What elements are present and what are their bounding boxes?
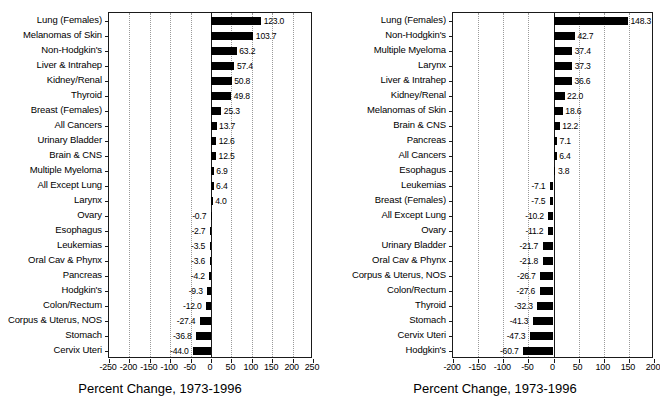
bar-value-label: -26.7	[517, 272, 536, 281]
bar	[554, 77, 572, 85]
x-axis-tick-label: 50	[573, 363, 583, 372]
category-label: Ovary	[421, 225, 446, 235]
category-tick	[449, 231, 453, 232]
bar-value-label: -60.7	[500, 347, 519, 356]
x-axis-title-left: Percent Change, 1973-1996	[10, 382, 310, 395]
category-tick	[449, 246, 453, 247]
bar	[554, 47, 573, 55]
plot-area-right: 148.342.737.437.336.622.018.612.27.16.43…	[452, 12, 653, 358]
bar	[533, 317, 554, 325]
category-tick	[449, 171, 453, 172]
bar	[211, 182, 214, 190]
category-tick	[449, 276, 453, 277]
bar-value-label: -2.7	[191, 227, 205, 236]
bar-value-label: -36.8	[173, 332, 192, 341]
bar-value-label: -4.2	[191, 272, 205, 281]
bar-value-label: -3.5	[191, 242, 205, 251]
bar	[554, 152, 557, 160]
x-axis-tick-label: -50	[183, 363, 195, 372]
gridline	[503, 13, 505, 357]
bar-value-label: 25.3	[224, 106, 240, 115]
gridline	[629, 13, 631, 357]
category-tick	[105, 36, 109, 37]
category-tick	[105, 141, 109, 142]
category-label: Lung (Females)	[37, 15, 102, 25]
chart-panel-right: Lung (Females)Non-Hodgkin'sMultiple Myel…	[330, 0, 658, 408]
bar	[554, 32, 575, 40]
category-label: Pancreas	[63, 271, 102, 281]
x-axis-tick-label: 200	[646, 363, 660, 372]
bar-value-label: -3.6	[191, 257, 205, 266]
x-axis-tick-label: 200	[284, 363, 298, 372]
x-axis-title-right: Percent Change, 1973-1996	[345, 382, 645, 395]
category-label: Corpus & Uterus, NOS	[8, 316, 102, 326]
bar-value-label: -10.2	[525, 212, 544, 221]
gridline	[150, 13, 152, 357]
category-label: Thyroid	[71, 90, 102, 100]
bar	[540, 287, 554, 295]
bar	[211, 152, 216, 160]
bar	[543, 242, 554, 250]
category-label: Kidney/Renal	[47, 75, 102, 85]
x-axis-tick-label: 150	[621, 363, 635, 372]
category-tick	[449, 66, 453, 67]
x-axis-tick-label: -250	[99, 363, 116, 372]
bar-value-label: 12.6	[219, 137, 235, 146]
bar	[554, 167, 556, 175]
category-label: Multiple Myeloma	[30, 165, 102, 175]
category-tick	[105, 126, 109, 127]
bar	[537, 302, 553, 310]
category-tick	[449, 96, 453, 97]
bar-value-label: 12.5	[219, 152, 235, 161]
x-axis-tick-label: -100	[494, 363, 511, 372]
category-label: All Cancers	[55, 120, 102, 130]
bar-value-label: -47.3	[507, 332, 526, 341]
bar-value-label: -9.3	[189, 287, 203, 296]
category-tick	[105, 216, 109, 217]
gridline	[293, 13, 295, 357]
category-label: Cervix Uteri	[398, 331, 446, 341]
bar	[211, 212, 212, 220]
category-tick	[105, 171, 109, 172]
category-label: Colon/Rectum	[43, 301, 102, 311]
bar-value-label: 6.9	[216, 167, 227, 176]
bar	[211, 32, 253, 40]
category-label: Brain & CNS	[393, 120, 446, 130]
bar-value-label: -0.7	[192, 212, 206, 221]
category-label: Non-Hodgkin's	[385, 30, 446, 40]
bar-value-label: -21.7	[520, 242, 539, 251]
bar-value-label: 63.2	[239, 46, 255, 55]
category-tick	[105, 321, 109, 322]
bar-value-label: -27.6	[517, 287, 536, 296]
bar	[548, 227, 554, 235]
category-label: All Cancers	[399, 150, 446, 160]
category-label: Larynx	[418, 60, 446, 70]
bar	[209, 272, 211, 280]
bar-value-label: 50.8	[234, 76, 250, 85]
category-tick	[105, 21, 109, 22]
bar	[200, 317, 211, 325]
category-label: Lung (Females)	[381, 15, 446, 25]
bar	[554, 92, 565, 100]
x-axis-tick-label: -200	[120, 363, 137, 372]
category-tick	[449, 186, 453, 187]
bar-value-label: -41.3	[510, 317, 529, 326]
category-label: Colon/Rectum	[387, 286, 446, 296]
bar	[210, 242, 211, 250]
category-tick	[449, 126, 453, 127]
category-tick	[105, 96, 109, 97]
gridline	[272, 13, 274, 357]
bar-value-label: 37.3	[575, 61, 591, 70]
category-label: Hodgkin's	[61, 286, 102, 296]
bar	[210, 257, 211, 265]
bar-value-label: 7.1	[560, 137, 571, 146]
category-tick	[449, 201, 453, 202]
gridline	[604, 13, 606, 357]
bar-value-label: 36.6	[574, 76, 590, 85]
category-label: Hodgkin's	[405, 346, 446, 356]
bar-value-label: 57.4	[237, 61, 253, 70]
category-label: Stomach	[409, 316, 446, 326]
category-tick	[105, 186, 109, 187]
category-label: Brain & CNS	[49, 150, 102, 160]
